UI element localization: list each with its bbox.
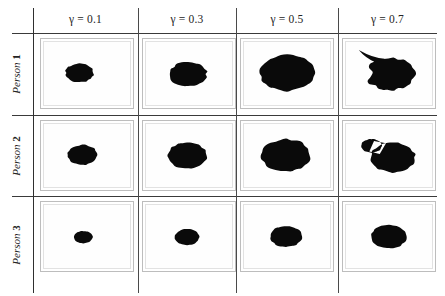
image-frame (145, 41, 233, 106)
image-frame (345, 204, 433, 269)
image-cell (40, 120, 134, 191)
image-cell (240, 201, 334, 272)
blob-path (65, 63, 94, 82)
row-rule-1 (12, 115, 437, 116)
blob-shape (244, 205, 330, 268)
blob-shape (146, 124, 232, 187)
image-frame (243, 123, 331, 188)
blob-path (371, 225, 407, 249)
blob-shape (346, 205, 432, 268)
image-frame (243, 41, 331, 106)
vrule-col-1 (138, 8, 139, 293)
image-cell (342, 38, 436, 109)
image-frame (145, 204, 233, 269)
vrule-col-3 (338, 8, 339, 293)
blob-shape (346, 42, 432, 105)
row-header-name: Person (10, 141, 22, 175)
image-frame (43, 204, 131, 269)
row-rule-2 (12, 196, 437, 197)
row-header-index: 3 (10, 225, 22, 231)
figure-image-grid: γ = 0.1 γ = 0.3 γ = 0.5 γ = 0.7 Person 1… (0, 0, 445, 296)
image-frame (345, 123, 433, 188)
image-frame (345, 41, 433, 106)
blob-shape (44, 124, 130, 187)
blob-shape (44, 205, 130, 268)
blob-path (67, 144, 97, 165)
image-cell (40, 201, 134, 272)
image-frame (43, 41, 131, 106)
image-cell (142, 120, 236, 191)
blob-shape (244, 124, 330, 187)
blob-path (361, 139, 415, 173)
row-header-p1: Person 1 (7, 34, 25, 114)
column-header-g07: γ = 0.7 (338, 10, 437, 28)
blob-path (261, 138, 311, 171)
row-header-p3: Person 3 (7, 205, 25, 285)
column-header-g03: γ = 0.3 (138, 10, 236, 28)
blob-shape (146, 205, 232, 268)
image-cell (142, 201, 236, 272)
image-cell (40, 38, 134, 109)
blob-shape (346, 124, 432, 187)
blob-path (170, 62, 208, 86)
image-cell (342, 201, 436, 272)
column-header-g01: γ = 0.1 (33, 10, 138, 28)
row-header-index: 2 (10, 136, 22, 142)
blob-path (167, 143, 207, 169)
column-header-g05: γ = 0.5 (236, 10, 338, 28)
image-frame (145, 123, 233, 188)
image-cell (240, 120, 334, 191)
vrule-col-2 (236, 8, 237, 293)
blob-path (270, 226, 302, 247)
image-frame (243, 204, 331, 269)
image-frame (43, 123, 131, 188)
blob-shape (146, 42, 232, 105)
header-rule (12, 33, 437, 34)
row-header-name: Person (10, 230, 22, 264)
row-header-index: 1 (10, 54, 22, 60)
blob-shape (244, 42, 330, 105)
image-cell (342, 120, 436, 191)
row-header-p2: Person 2 (7, 116, 25, 196)
blob-path (259, 54, 315, 91)
vrule-left (33, 8, 34, 293)
blob-path (175, 229, 200, 245)
blob-shape (44, 42, 130, 105)
image-cell (240, 38, 334, 109)
blob-path (74, 231, 93, 244)
blob-path (359, 50, 416, 91)
row-header-name: Person (10, 60, 22, 94)
image-cell (142, 38, 236, 109)
